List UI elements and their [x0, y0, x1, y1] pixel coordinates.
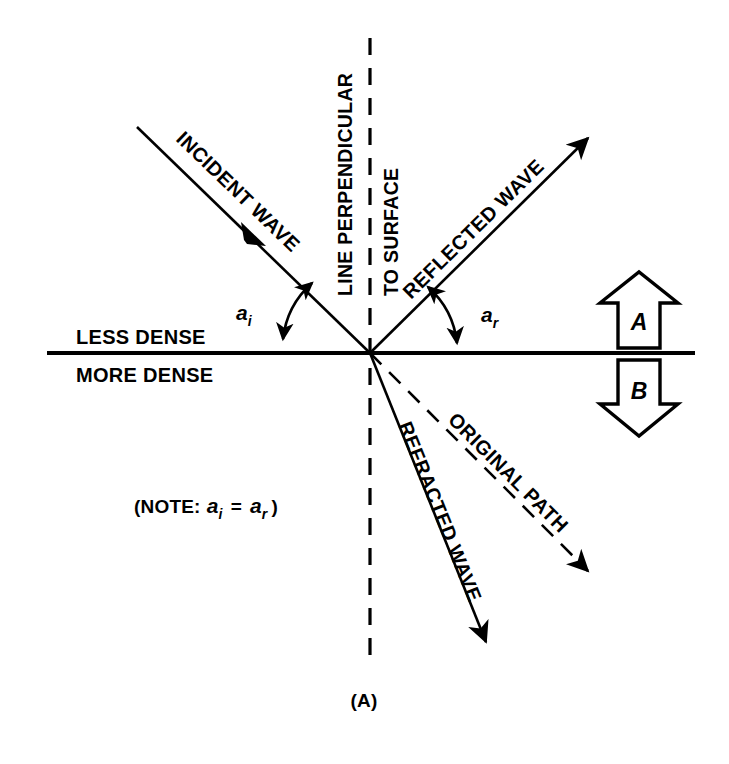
- reflected-ray-line: [370, 138, 588, 353]
- reflected-angle-symbol: a: [481, 303, 493, 326]
- block-arrow-up-group: A: [600, 272, 678, 348]
- note-suffix: ): [271, 496, 278, 517]
- figure-caption: (A): [351, 690, 378, 711]
- note-angle-i-subscript: i: [219, 506, 224, 522]
- wave-reflection-refraction-diagram: ai ar INCIDENT WAVE REFLECTED WAVE REFRA…: [0, 0, 729, 764]
- note-equals: =: [231, 496, 242, 517]
- incident-angle-symbol: a: [236, 301, 248, 324]
- reflected-angle-subscript: r: [493, 315, 500, 331]
- note-angle-r-symbol: a: [250, 494, 262, 517]
- original-path-label: ORIGINAL PATH: [444, 408, 572, 536]
- incident-wave-label: INCIDENT WAVE: [172, 127, 304, 256]
- figure-container: ai ar INCIDENT WAVE REFLECTED WAVE REFRA…: [0, 0, 729, 764]
- block-arrow-down-group: B: [600, 360, 678, 436]
- more-dense-label: MORE DENSE: [76, 364, 213, 386]
- less-dense-label: LESS DENSE: [76, 326, 206, 348]
- note-angle-i-symbol: a: [207, 494, 219, 517]
- original-path-line: [370, 353, 588, 571]
- incident-angle-subscript: i: [248, 313, 253, 329]
- normal-line-label-2: TO SURFACE: [380, 168, 402, 296]
- block-arrow-up-label: A: [630, 309, 648, 335]
- note-prefix: (NOTE:: [134, 496, 201, 517]
- note-angle-r-subscript: r: [262, 506, 269, 522]
- note-text: (NOTE:ai=ar): [134, 494, 278, 522]
- reflected-angle-arc: [428, 287, 457, 343]
- reflected-wave-label: REFLECTED WAVE: [398, 155, 548, 303]
- reflected-angle-label: ar: [481, 303, 500, 331]
- block-arrow-down-label: B: [631, 378, 648, 404]
- normal-line-label-1: LINE PERPENDICULAR: [334, 73, 356, 296]
- incident-angle-label: ai: [236, 301, 253, 329]
